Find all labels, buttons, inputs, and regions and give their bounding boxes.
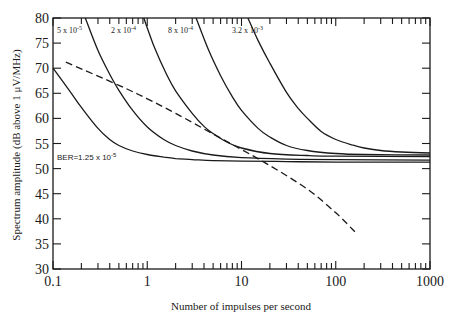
- ber-curve: [196, 18, 430, 155]
- curve-label: BER=1.25 x 10-5: [57, 152, 117, 162]
- y-tick-label: 35: [35, 237, 49, 252]
- axis-ticks: [53, 18, 430, 269]
- x-tick-label: 100: [325, 274, 346, 289]
- y-tick-label: 60: [35, 111, 49, 126]
- dashed-reference-line: [66, 62, 355, 232]
- y-tick-label: 55: [35, 137, 49, 152]
- curve-label: 5 x 10-5: [57, 25, 82, 35]
- ber-curve: [144, 18, 430, 157]
- chart: Spectrum amplitude (dB above 1 μV/MHz) N…: [0, 0, 453, 322]
- x-tick-label: 10: [235, 274, 249, 289]
- y-tick-label: 65: [35, 86, 49, 101]
- y-axis-title: Spectrum amplitude (dB above 1 μV/MHz): [10, 49, 23, 241]
- y-tick-label: 75: [35, 36, 49, 51]
- axis-tick-labels: 0.111010010003035404550556065707580: [35, 11, 444, 289]
- x-tick-label: 1000: [416, 274, 444, 289]
- ber-curve: [248, 18, 430, 153]
- y-tick-label: 40: [35, 212, 49, 227]
- y-tick-label: 45: [35, 187, 49, 202]
- y-tick-label: 70: [35, 61, 49, 76]
- y-axis-label: Spectrum amplitude (dB above 1 μV/MHz): [10, 49, 23, 241]
- x-axis-label: Number of impulses per second: [171, 300, 311, 312]
- curve-annotations: BER=1.25 x 10-55 x 10-52 x 10-48 x 10-43…: [57, 25, 263, 162]
- data-series: [53, 18, 430, 232]
- curve-label: 3.2 x 10-3: [232, 25, 263, 35]
- plot-frame: [53, 18, 430, 269]
- curve-label: 2 x 10-4: [111, 25, 136, 35]
- x-tick-label: 1: [144, 274, 151, 289]
- y-tick-label: 50: [35, 162, 49, 177]
- y-tick-label: 30: [35, 262, 49, 277]
- y-tick-label: 80: [35, 11, 49, 26]
- curve-label: 8 x 10-4: [168, 25, 193, 35]
